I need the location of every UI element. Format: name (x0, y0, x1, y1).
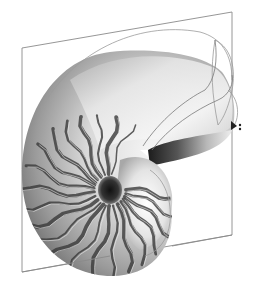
nautilus-shell-body (21, 51, 234, 277)
shell-umbilicus (98, 176, 122, 204)
nautilus-illustration (0, 0, 257, 283)
figure-stage (0, 0, 257, 283)
